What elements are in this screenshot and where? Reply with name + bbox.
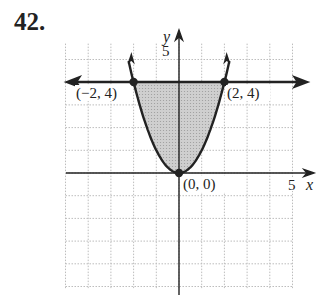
y-tick-5: 5 — [162, 43, 170, 59]
graph: (−2, 4) (2, 4) (0, 0) 5 y 5 x — [0, 0, 334, 296]
point-origin — [175, 169, 183, 177]
label-origin: (0, 0) — [183, 176, 216, 193]
x-tick-5: 5 — [288, 177, 296, 193]
label-point-neg2-4: (−2, 4) — [76, 85, 117, 102]
point-neg2-4 — [129, 78, 137, 86]
y-axis-label: y — [161, 28, 171, 46]
x-axis-label: x — [305, 176, 313, 193]
label-point-2-4: (2, 4) — [227, 85, 260, 102]
